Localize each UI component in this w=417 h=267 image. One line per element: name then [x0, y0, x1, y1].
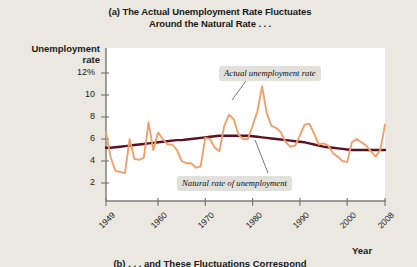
annotation-actual-unemployment-rate: Actual unemployment rate — [219, 66, 321, 81]
x-axis-label: Year — [352, 245, 372, 256]
chart-svg — [0, 0, 417, 267]
y-tick-label: 10 — [65, 89, 95, 99]
natural-annotation-leader — [255, 140, 268, 173]
bottom-panel-caption: (b) . . . and These Fluctuations Corresp… — [60, 258, 360, 267]
y-tick-label: 6 — [65, 133, 95, 143]
actual-annotation-leader — [232, 78, 248, 100]
y-tick-label: 2 — [65, 177, 95, 187]
y-tick-label: 4 — [65, 155, 95, 165]
unemployment-figure: (a) The Actual Unemployment Rate Fluctua… — [0, 0, 417, 267]
y-axis-ticks — [101, 73, 109, 183]
series-group — [106, 86, 385, 173]
actual-unemployment-line — [106, 86, 385, 173]
annotation-natural-rate: Natural rate of unemployment — [177, 176, 292, 191]
natural-rate-line — [106, 136, 385, 150]
x-axis-ticks — [106, 198, 385, 206]
y-tick-label: 12% — [65, 67, 95, 77]
y-tick-label: 8 — [65, 111, 95, 121]
